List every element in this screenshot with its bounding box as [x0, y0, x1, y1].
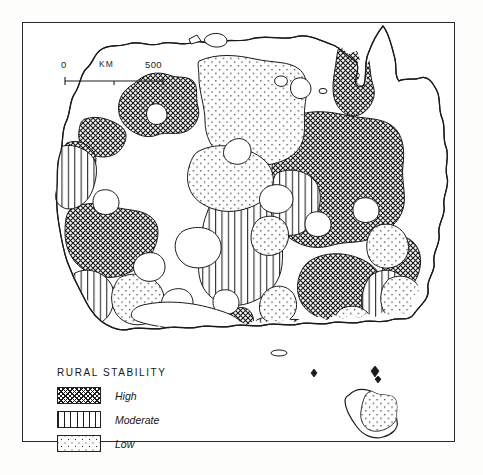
legend: RURAL STABILITY High Moderate Low: [57, 367, 227, 459]
scale-zero-label: 0: [61, 59, 67, 70]
scale-max-label: 500: [145, 59, 162, 70]
legend-title: RURAL STABILITY: [57, 367, 227, 378]
legend-swatch-low: [57, 435, 101, 452]
scale-bar: 0 KM 500: [61, 59, 171, 89]
legend-swatch-high: [57, 387, 101, 404]
map-frame: 0 KM 500 RURAL STABILITY High Moderate L…: [22, 22, 455, 442]
legend-item-moderate: Moderate: [57, 411, 227, 428]
legend-label-moderate: Moderate: [115, 414, 159, 426]
figure-page: 0 KM 500 RURAL STABILITY High Moderate L…: [0, 0, 483, 475]
legend-swatch-moderate: [57, 411, 101, 428]
scale-bar-labels: 0 KM 500: [61, 59, 171, 73]
legend-item-low: Low: [57, 435, 227, 452]
legend-label-low: Low: [115, 438, 134, 450]
tasmania: [345, 390, 399, 438]
scale-bar-rule: [64, 77, 164, 87]
legend-label-high: High: [115, 390, 137, 402]
scale-unit-label: KM: [99, 59, 114, 69]
legend-item-high: High: [57, 387, 227, 404]
